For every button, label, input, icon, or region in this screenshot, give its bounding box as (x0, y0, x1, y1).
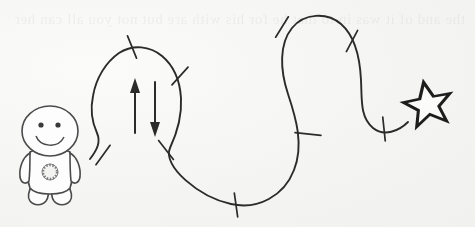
figure-arm-right (70, 153, 80, 183)
path-tick (96, 145, 110, 164)
winding-path (90, 16, 408, 206)
figure-arm-left (20, 153, 30, 183)
drawing-layer (0, 0, 475, 227)
path-tick (383, 117, 386, 141)
illustration-canvas: the and of it was in to that he for his … (0, 0, 475, 227)
path-tick (276, 17, 289, 37)
arrow-down-head (150, 122, 160, 137)
figure-head (22, 106, 78, 156)
smiley-figure (20, 106, 80, 205)
arrow-down (150, 82, 160, 137)
figure-eye-left (38, 122, 43, 127)
arrow-up (130, 78, 140, 133)
arrow-up-head (130, 78, 140, 93)
figure-eye-right (55, 122, 60, 127)
